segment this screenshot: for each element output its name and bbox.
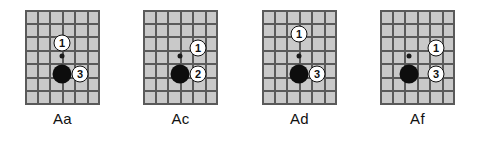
diagram-caption: Aa [25, 110, 100, 127]
black-stone [53, 65, 72, 84]
grid-line-horizontal [143, 36, 218, 38]
move-marker-label: 1 [195, 43, 201, 54]
board-grid [380, 10, 455, 105]
move-marker-1: 1 [54, 35, 71, 52]
move-marker-label: 2 [195, 69, 201, 80]
move-marker-2: 2 [190, 66, 207, 83]
black-stone [400, 65, 419, 84]
move-marker-1: 1 [291, 26, 308, 43]
go-board: 13 [25, 10, 100, 105]
move-marker-label: 1 [296, 29, 302, 40]
go-diagram-af: 13Af [380, 0, 478, 141]
move-marker-label: 1 [433, 43, 439, 54]
go-diagram-aa: 13Aa [25, 0, 125, 141]
star-point-icon [178, 54, 183, 59]
grid-line-horizontal [262, 103, 337, 105]
black-stone [290, 65, 309, 84]
grid-line-horizontal [143, 23, 218, 25]
star-point-icon [407, 54, 412, 59]
go-board: 13 [262, 10, 337, 105]
grid-line-horizontal [380, 10, 455, 12]
diagram-caption: Ad [262, 110, 337, 127]
star-point-icon [60, 54, 65, 59]
grid-line-horizontal [143, 50, 218, 52]
grid-line-horizontal [262, 50, 337, 52]
star-point-icon [297, 54, 302, 59]
black-stone [171, 65, 190, 84]
grid-line-horizontal [25, 103, 100, 105]
go-diagram-ac: 12Ac [143, 0, 243, 141]
grid-line-horizontal [380, 63, 455, 65]
move-marker-1: 1 [428, 40, 445, 57]
move-marker-label: 3 [433, 69, 439, 80]
go-diagram-figure: 13Aa12Ac13Ad13Af [0, 0, 478, 141]
move-marker-label: 3 [77, 69, 83, 80]
go-board: 12 [143, 10, 218, 105]
grid-line-horizontal [143, 103, 218, 105]
grid-line-horizontal [143, 90, 218, 92]
grid-line-horizontal [25, 10, 100, 12]
diagram-caption: Af [380, 110, 455, 127]
move-marker-label: 3 [314, 69, 320, 80]
grid-line-horizontal [380, 23, 455, 25]
grid-line-horizontal [25, 23, 100, 25]
grid-line-horizontal [262, 10, 337, 12]
move-marker-3: 3 [72, 66, 89, 83]
diagram-caption: Ac [143, 110, 218, 127]
grid-line-horizontal [262, 90, 337, 92]
go-diagram-ad: 13Ad [262, 0, 362, 141]
grid-line-horizontal [25, 90, 100, 92]
move-marker-1: 1 [190, 40, 207, 57]
grid-line-horizontal [143, 10, 218, 12]
grid-line-horizontal [380, 103, 455, 105]
move-marker-3: 3 [428, 66, 445, 83]
go-board: 13 [380, 10, 455, 105]
grid-line-horizontal [380, 36, 455, 38]
move-marker-3: 3 [309, 66, 326, 83]
grid-line-horizontal [380, 90, 455, 92]
move-marker-label: 1 [59, 38, 65, 49]
